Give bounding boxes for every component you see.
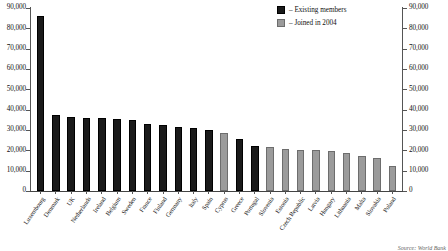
bar-netherlands[interactable]	[83, 118, 91, 191]
y-axis-tick-label-left: 0	[0, 187, 26, 194]
y-tick-left	[26, 49, 30, 50]
y-axis-tick-label-right: 80,000	[409, 25, 428, 32]
source-note: Source: World Bank	[398, 245, 446, 251]
y-tick-right	[403, 8, 407, 9]
x-label-slot: Spain	[201, 196, 216, 251]
y-tick-left	[26, 8, 30, 9]
y-tick-left	[26, 191, 30, 192]
bar-france[interactable]	[144, 124, 152, 191]
x-label-slot: Poland	[385, 196, 400, 251]
x-label-slot: Germany	[171, 196, 186, 251]
x-tick	[193, 191, 194, 194]
y-axis-tick-label-right: 20,000	[409, 147, 428, 154]
x-label-slot: Portugal	[247, 196, 262, 251]
x-tick-slot	[262, 191, 277, 195]
bar-slot	[293, 8, 308, 191]
x-label-slot: France	[140, 196, 155, 251]
x-axis-labels: LuxembourgDenmarkUKNetherlandsIrelandBel…	[31, 196, 402, 251]
bar-slot	[324, 8, 339, 191]
x-tick-slot	[109, 191, 124, 195]
bar-slot	[94, 8, 109, 191]
legend-swatch-existing	[277, 6, 285, 14]
x-label-slot: Hungary	[324, 196, 339, 251]
bar-uk[interactable]	[67, 117, 75, 191]
y-tick-right	[403, 171, 407, 172]
bar-germany[interactable]	[175, 127, 183, 191]
legend-swatch-joined	[277, 19, 285, 27]
y-tick-right	[403, 28, 407, 29]
x-label-slot: Belgium	[109, 196, 124, 251]
bar-malta[interactable]	[358, 156, 366, 191]
x-axis-label-italy: Italy	[187, 196, 199, 209]
bar-denmark[interactable]	[52, 115, 60, 191]
x-tick	[254, 191, 255, 194]
x-tick-slot	[155, 191, 170, 195]
y-axis-tick-label-left: 60,000	[0, 65, 26, 72]
bar-poland[interactable]	[389, 166, 397, 191]
legend-label: – Existing members	[289, 6, 347, 14]
bar-portugal[interactable]	[251, 146, 259, 191]
bar-italy[interactable]	[190, 128, 198, 191]
x-tick	[331, 191, 332, 194]
bar-greece[interactable]	[236, 139, 244, 191]
x-label-slot: Lithuania	[339, 196, 354, 251]
bar-spain[interactable]	[205, 130, 213, 191]
bar-slovakia[interactable]	[373, 158, 381, 191]
bar-slovenia[interactable]	[266, 147, 274, 191]
x-axis-label-uk: UK	[66, 196, 76, 207]
bar-hungary[interactable]	[328, 151, 336, 191]
bar-chart: 010,00020,00030,00040,00050,00060,00070,…	[0, 0, 448, 251]
x-axis-label-cyprus: Cyprus	[214, 196, 230, 214]
bar-lithuania[interactable]	[343, 153, 351, 191]
x-tick-slot	[48, 191, 63, 195]
bar-czech-republic[interactable]	[297, 150, 305, 191]
y-axis-tick-label-right: 50,000	[409, 86, 428, 93]
x-tick	[40, 191, 41, 194]
bar-finland[interactable]	[159, 125, 167, 191]
legend-label: – Joined in 2004	[289, 19, 337, 27]
x-axis-label-poland: Poland	[383, 196, 398, 214]
y-axis-tick-label-right: 10,000	[409, 167, 428, 174]
x-tick	[117, 191, 118, 194]
x-label-slot: Slovenia	[262, 196, 277, 251]
x-label-slot: Netherlands	[79, 196, 94, 251]
bar-cyprus[interactable]	[220, 133, 228, 191]
legend-item-joined[interactable]: – Joined in 2004	[277, 19, 347, 27]
bar-slot	[140, 8, 155, 191]
x-tick	[208, 191, 209, 194]
bar-slot	[48, 8, 63, 191]
bar-sweden[interactable]	[129, 120, 137, 191]
y-tick-right	[403, 191, 407, 192]
x-tick	[270, 191, 271, 194]
x-label-slot: Czech Republic	[293, 196, 308, 251]
bar-belgium[interactable]	[113, 119, 121, 191]
x-label-slot: Latvia	[308, 196, 323, 251]
x-label-slot: Cyprus	[217, 196, 232, 251]
x-tick-slot	[201, 191, 216, 195]
bar-slot	[171, 8, 186, 191]
y-axis-tick-label-left: 80,000	[0, 25, 26, 32]
bar-latvia[interactable]	[312, 150, 320, 191]
bar-slot	[155, 8, 170, 191]
bar-luxembourg[interactable]	[37, 16, 45, 191]
x-label-slot: Denmark	[48, 196, 63, 251]
chart-legend: – Existing members– Joined in 2004	[277, 6, 347, 32]
x-tick	[71, 191, 72, 194]
y-tick-right	[403, 150, 407, 151]
x-tick	[285, 191, 286, 194]
bar-slot	[262, 8, 277, 191]
legend-item-existing[interactable]: – Existing members	[277, 6, 347, 14]
x-tick	[361, 191, 362, 194]
y-axis-tick-label-left: 90,000	[0, 4, 26, 11]
x-tick-slot	[217, 191, 232, 195]
x-tick-slot	[354, 191, 369, 195]
bar-ireland[interactable]	[98, 118, 106, 191]
bar-estonia[interactable]	[282, 149, 290, 191]
bar-slot	[370, 8, 385, 191]
bar-slot	[339, 8, 354, 191]
y-axis-tick-label-right: 0	[409, 187, 413, 194]
bar-slot	[79, 8, 94, 191]
y-tick-left	[26, 89, 30, 90]
y-tick-right	[403, 89, 407, 90]
x-label-slot: Finland	[155, 196, 170, 251]
